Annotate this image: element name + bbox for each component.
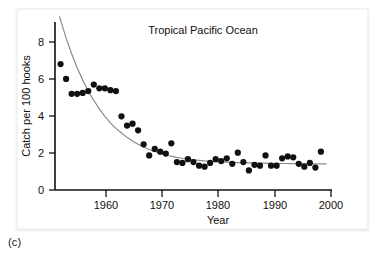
- scatter-point: [224, 155, 230, 161]
- chart-title: Tropical Pacific Ocean: [148, 24, 258, 36]
- scatter-point: [118, 113, 124, 119]
- scatter-point: [251, 162, 257, 168]
- scatter-point: [141, 141, 147, 147]
- scatter-point: [107, 87, 113, 93]
- chart-plot-panel: Tropical Pacific Ocean 0 2 4 6 8: [18, 10, 367, 228]
- scatter-point: [102, 85, 108, 91]
- scatter-point: [268, 163, 274, 169]
- scatter-point: [168, 140, 174, 146]
- y-tick-label-8: 8: [38, 36, 44, 48]
- scatter-point: [113, 88, 119, 94]
- scatter-point: [301, 164, 307, 170]
- scatter-point: [157, 149, 163, 155]
- scatter-point: [179, 160, 185, 166]
- scatter-point: [273, 163, 279, 169]
- scatter-point: [135, 127, 141, 133]
- scatter-point: [213, 156, 219, 162]
- scatter-point: [296, 161, 302, 167]
- scatter-point: [229, 161, 235, 167]
- x-tick-label-1970: 1970: [150, 199, 174, 211]
- y-tick-label-2: 2: [38, 147, 44, 159]
- x-tick-label-1990: 1990: [263, 199, 287, 211]
- scatter-point: [285, 153, 291, 159]
- scatter-point: [312, 164, 318, 170]
- scatter-point: [174, 159, 180, 165]
- scatter-point: [124, 122, 130, 128]
- x-tick-label-1960: 1960: [94, 199, 118, 211]
- y-axis-title: Catch per 100 hooks: [20, 55, 32, 157]
- x-axis-title: Year: [207, 214, 230, 226]
- plot-background: [18, 10, 367, 228]
- scatter-point: [85, 88, 91, 94]
- scatter-chart-svg: Tropical Pacific Ocean 0 2 4 6 8: [18, 10, 367, 228]
- scatter-point: [218, 158, 224, 164]
- scatter-point: [185, 156, 191, 162]
- scatter-point: [68, 91, 74, 97]
- scatter-point: [63, 76, 69, 82]
- scatter-point: [91, 81, 97, 87]
- scatter-point: [163, 150, 169, 156]
- scatter-point: [246, 167, 252, 173]
- scatter-point: [152, 146, 158, 152]
- y-tick-label-4: 4: [38, 110, 44, 122]
- figure-root: Tropical Pacific Ocean 0 2 4 6 8: [0, 0, 385, 261]
- scatter-point: [74, 91, 80, 97]
- scatter-point: [307, 160, 313, 166]
- scatter-point: [190, 159, 196, 165]
- scatter-point: [80, 90, 86, 96]
- scatter-point: [240, 159, 246, 165]
- scatter-point: [262, 152, 268, 158]
- x-tick-label-1980: 1980: [206, 199, 230, 211]
- scatter-point: [57, 61, 63, 67]
- scatter-point: [257, 163, 263, 169]
- scatter-point: [318, 149, 324, 155]
- scatter-point: [279, 155, 285, 161]
- scatter-point: [96, 85, 102, 91]
- scatter-point: [290, 154, 296, 160]
- scatter-point: [207, 160, 213, 166]
- scatter-point: [146, 152, 152, 158]
- scatter-point: [196, 163, 202, 169]
- scatter-point: [235, 150, 241, 156]
- x-tick-label-2000: 2000: [319, 199, 343, 211]
- figure-caption: (c): [8, 236, 21, 248]
- scatter-point: [129, 121, 135, 127]
- y-tick-label-0: 0: [38, 184, 44, 196]
- y-tick-label-6: 6: [38, 73, 44, 85]
- scatter-point: [201, 164, 207, 170]
